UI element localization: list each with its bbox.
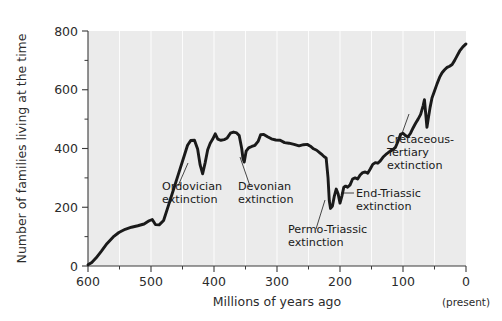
annotation-line: Tertiary — [386, 146, 429, 159]
y-tick-label: 400 — [54, 141, 78, 156]
x-tick-label: 600 — [76, 274, 100, 289]
annotation-line: Permo-Triassic — [288, 223, 367, 236]
extinction-chart-figure: 0200400600800 6005004003002001000 Ordovi… — [0, 0, 502, 321]
x-tick-label: 300 — [265, 274, 289, 289]
x-tick-label: 100 — [391, 274, 415, 289]
y-tick-label: 0 — [70, 259, 78, 274]
annotation-line: extinction — [387, 159, 442, 172]
x-tick-label: 400 — [202, 274, 226, 289]
annotation-line: End-Triassic — [356, 187, 421, 200]
y-axis-title: Number of families living at the time — [14, 33, 29, 263]
annotation-line: extinction — [356, 200, 411, 213]
annotation-line: Ordovician — [162, 180, 222, 193]
annotation-line: Cretaceous- — [387, 133, 454, 146]
annotation-line: Devonian — [238, 180, 291, 193]
annotation-line: extinction — [162, 193, 217, 206]
annotation-line: extinction — [288, 236, 343, 249]
y-tick-label: 800 — [54, 24, 78, 39]
chart-canvas: 0200400600800 6005004003002001000 Ordovi… — [0, 0, 502, 321]
y-tick-label: 200 — [54, 200, 78, 215]
x-tick-label: 0 — [462, 274, 470, 289]
x-axis-title: Millions of years ago — [213, 294, 341, 309]
x-tick-label: 200 — [328, 274, 352, 289]
x-tick-label: 500 — [139, 274, 163, 289]
present-note: (present) — [442, 296, 490, 308]
annotation-line: extinction — [238, 193, 293, 206]
y-tick-label: 600 — [54, 82, 78, 97]
